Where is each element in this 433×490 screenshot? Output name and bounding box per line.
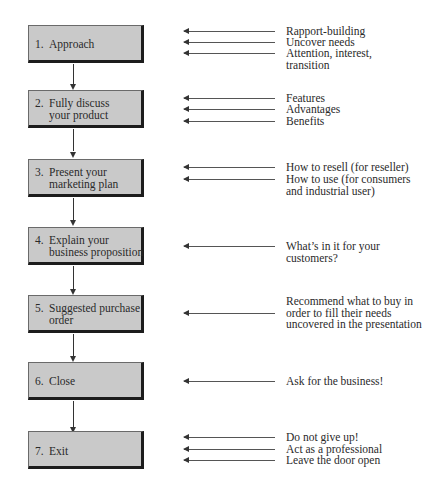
step-label: Exit xyxy=(49,445,68,457)
arrow-down-icon xyxy=(70,152,76,158)
step-label: Close xyxy=(49,375,75,387)
step-label: Approach xyxy=(49,38,94,50)
step-label: Fully discuss your product xyxy=(49,97,109,121)
step-label: Explain your business proposition xyxy=(49,234,143,258)
annotation: Recommend what to buy in order to fill t… xyxy=(286,296,422,331)
arrow-left-icon xyxy=(184,246,275,247)
arrow-left-icon xyxy=(184,167,275,168)
step-6-box: 6. Close xyxy=(28,362,144,400)
annotation: Benefits xyxy=(286,116,324,128)
step-number: 2. xyxy=(35,97,44,109)
step-1-box: 1. Approach xyxy=(28,25,144,63)
step-7-box: 7. Exit xyxy=(28,431,144,469)
arrow-left-icon xyxy=(184,437,275,438)
arrow-left-icon xyxy=(184,381,275,382)
arrow-left-icon xyxy=(184,179,275,180)
arrow-left-icon xyxy=(184,449,275,450)
step-label: Present your marketing plan xyxy=(49,166,118,190)
arrow-left-icon xyxy=(184,121,275,122)
step-4-box: 4. Explain your business proposition xyxy=(28,227,144,265)
step-number: 4. xyxy=(35,234,44,246)
annotation: Attention, interest, transition xyxy=(286,48,372,71)
arrow-left-icon xyxy=(184,53,275,54)
flow-connector xyxy=(73,129,74,151)
flow-connector xyxy=(73,401,74,428)
annotation: How to resell (for reseller) xyxy=(286,162,409,174)
step-number: 6. xyxy=(35,375,44,387)
step-label: Suggested purchase order xyxy=(49,302,140,326)
step-number: 7. xyxy=(35,445,44,457)
arrow-down-icon xyxy=(70,220,76,226)
annotation: What’s in it for your customers? xyxy=(286,241,380,264)
annotation: Do not give up! xyxy=(286,432,359,444)
arrow-left-icon xyxy=(184,313,275,314)
step-number: 1. xyxy=(35,38,44,50)
arrow-left-icon xyxy=(184,109,275,110)
step-number: 3. xyxy=(35,166,44,178)
flow-connector xyxy=(73,266,74,290)
annotation: Advantages xyxy=(286,104,340,116)
step-5-box: 5. Suggested purchase order xyxy=(28,295,144,333)
step-2-box: 2. Fully discuss your product xyxy=(28,90,144,128)
flow-connector xyxy=(73,64,74,86)
flow-connector xyxy=(73,198,74,220)
annotation: Ask for the business! xyxy=(286,376,383,388)
step-number: 5. xyxy=(35,302,44,314)
arrow-left-icon xyxy=(184,98,275,99)
annotation: Leave the door open xyxy=(286,455,380,467)
arrow-left-icon xyxy=(184,31,275,32)
flow-connector xyxy=(73,334,74,356)
annotation: How to use (for consumers and industrial… xyxy=(286,174,411,197)
arrow-left-icon xyxy=(184,460,275,461)
arrow-left-icon xyxy=(184,42,275,43)
step-3-box: 3. Present your marketing plan xyxy=(28,159,144,197)
